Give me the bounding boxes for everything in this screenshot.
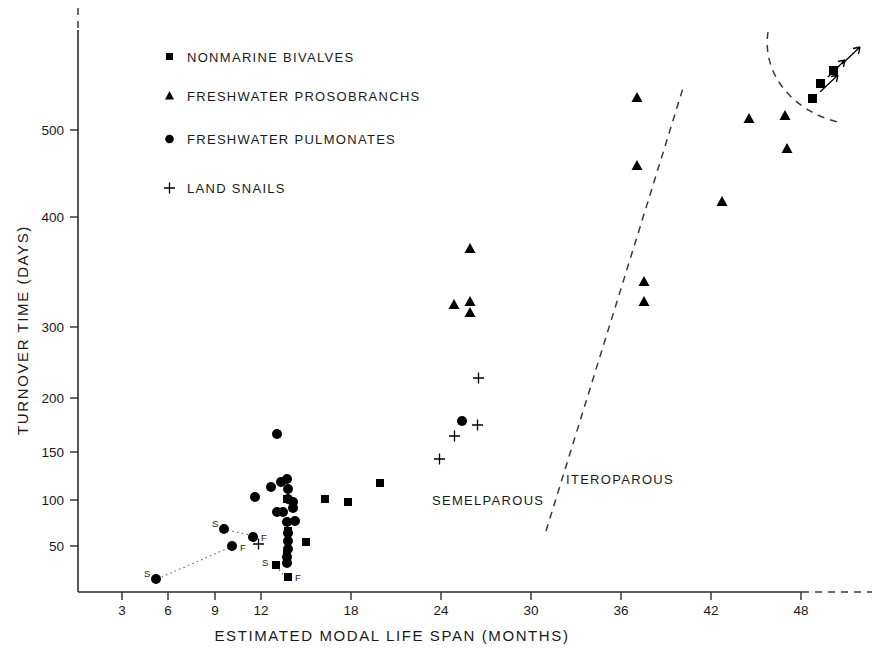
data-point-triangle — [639, 296, 650, 306]
data-point-circle — [250, 492, 260, 502]
data-point-triangle — [449, 299, 460, 309]
y-tick-label-500: 500 — [41, 123, 64, 138]
data-point-square — [283, 550, 291, 558]
point-label-f: F — [240, 542, 246, 553]
data-point-circle-labeled — [227, 541, 237, 551]
connector-s-to-f-lower — [157, 546, 233, 579]
point-label-f: F — [295, 572, 301, 583]
x-tick-label-24: 24 — [433, 603, 449, 618]
x-tick-label-6: 6 — [164, 603, 172, 618]
data-point-square — [344, 498, 352, 506]
series-nonmarine-bivalves: S F — [262, 47, 860, 583]
point-label-s: S — [212, 518, 218, 529]
x-tick-label-30: 30 — [523, 603, 538, 618]
data-point-circle — [283, 484, 293, 494]
data-point-square — [321, 495, 329, 503]
legend-item-nonmarine-bivalves: NONMARINE BIVALVES — [166, 50, 354, 65]
legend-item-freshwater-pulmonates: FRESHWATER PULMONATES — [165, 132, 396, 147]
triangle-icon — [165, 91, 174, 100]
data-point-circle-labeled — [219, 524, 229, 534]
y-tick-label-200: 200 — [41, 391, 64, 406]
data-point-circle — [282, 558, 292, 568]
circle-icon — [165, 135, 174, 144]
data-point-circle — [457, 416, 467, 426]
data-point-square-arrow — [829, 66, 838, 75]
growth-arrows — [820, 47, 860, 92]
data-point-square-arrow — [816, 79, 825, 88]
plus-icon — [164, 183, 175, 194]
region-label-iteroparous: ITEROPAROUS — [566, 472, 674, 487]
data-point-circle — [288, 503, 298, 513]
legend: NONMARINE BIVALVES FRESHWATER PROSOBRANC… — [164, 50, 421, 196]
x-tick-label-48: 48 — [793, 603, 808, 618]
x-tick-label-12: 12 — [253, 603, 268, 618]
y-tick-label-150: 150 — [41, 445, 64, 460]
data-point-square-labeled — [272, 561, 280, 569]
data-point-triangle — [639, 276, 650, 286]
y-ticks: 500 400 300 200 150 100 50 — [41, 123, 78, 554]
data-point-plus — [473, 373, 484, 384]
data-point-plus — [472, 420, 483, 431]
data-point-circle — [266, 482, 276, 492]
y-tick-label-50: 50 — [49, 539, 64, 554]
point-label-f: F — [261, 532, 267, 543]
x-tick-label-18: 18 — [343, 603, 358, 618]
semelparous-iteroparous-divider — [546, 85, 684, 531]
legend-label-1: FRESHWATER PROSOBRANCHS — [187, 89, 421, 104]
x-tick-label-42: 42 — [703, 603, 718, 618]
x-axis-title: ESTIMATED MODAL LIFE SPAN (MONTHS) — [215, 627, 570, 644]
y-tick-label-300: 300 — [41, 320, 64, 335]
data-point-circle — [278, 507, 288, 517]
data-point-square-arrow — [808, 94, 817, 103]
series-freshwater-prosobranchs — [449, 92, 793, 317]
x-tick-label-36: 36 — [613, 603, 628, 618]
data-point-circle — [282, 474, 292, 484]
legend-label-0: NONMARINE BIVALVES — [187, 50, 354, 65]
data-point-triangle — [465, 307, 476, 317]
point-label-s: S — [144, 568, 150, 579]
data-point-triangle — [717, 196, 728, 206]
arrow-up-right-2 — [842, 47, 860, 64]
legend-item-freshwater-prosobranchs: FRESHWATER PROSOBRANCHS — [165, 89, 421, 104]
point-label-s: S — [262, 557, 268, 568]
data-point-circle-labeled — [151, 574, 161, 584]
data-point-square — [283, 495, 291, 503]
series-freshwater-pulmonates: S F F S — [144, 416, 467, 584]
data-point-plus — [449, 431, 460, 442]
data-point-triangle — [632, 160, 643, 170]
data-point-triangle — [465, 243, 476, 253]
highlight-arc — [767, 32, 838, 122]
x-ticks: 3 6 9 12 18 24 30 36 42 48 — [118, 592, 808, 618]
data-point-circle-labeled — [248, 532, 258, 542]
y-tick-label-400: 400 — [41, 210, 64, 225]
data-point-square-labeled — [284, 573, 292, 581]
data-point-circle — [290, 516, 300, 526]
y-axis-title: TURNOVER TIME (DAYS) — [14, 225, 31, 435]
figure-container: 500 400 300 200 150 100 50 3 6 9 12 — [0, 0, 878, 656]
region-label-semelparous: SEMELPAROUS — [432, 493, 544, 508]
data-point-triangle — [782, 143, 793, 153]
scatter-chart: 500 400 300 200 150 100 50 3 6 9 12 — [0, 0, 878, 656]
legend-label-2: FRESHWATER PULMONATES — [187, 132, 396, 147]
data-point-triangle — [780, 110, 791, 120]
data-point-triangle — [632, 92, 643, 102]
data-point-square — [376, 479, 384, 487]
y-tick-label-100: 100 — [41, 493, 64, 508]
data-point-square — [302, 538, 310, 546]
data-point-triangle — [744, 113, 755, 123]
data-point-square — [284, 527, 292, 535]
data-point-circle — [272, 429, 282, 439]
x-tick-label-9: 9 — [211, 603, 219, 618]
legend-label-3: LAND SNAILS — [187, 181, 286, 196]
data-point-plus — [434, 454, 445, 465]
x-tick-label-3: 3 — [118, 603, 126, 618]
square-icon — [166, 53, 173, 60]
legend-item-land-snails: LAND SNAILS — [164, 181, 286, 196]
data-point-triangle — [465, 296, 476, 306]
